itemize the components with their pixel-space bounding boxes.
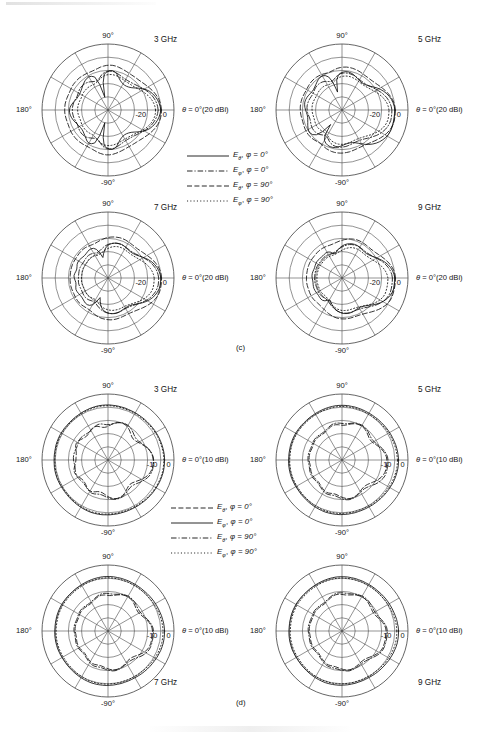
- frequency-label: 9 GHz: [418, 679, 441, 687]
- angle-tick-minus90: -90°: [335, 529, 349, 537]
- series-path-2: [308, 593, 387, 671]
- polar-plot-d-7ghz: 90°180°-90°-100θ = 0°(10 dBi)7 GHz: [28, 543, 270, 717]
- axis-label-theta: θ = 0°(10 dBi): [182, 456, 229, 464]
- page-scan-artifact-top: [6, 2, 156, 5]
- angle-tick-minus90: -90°: [335, 179, 349, 187]
- legend-label: Eφ, φ = 90°: [233, 195, 273, 206]
- legend-label: Eφ, φ = 0°: [233, 165, 269, 176]
- frequency-label: 5 GHz: [418, 386, 441, 394]
- polar-series-group: [306, 239, 395, 319]
- polar-plot-c-5ghz: 90°180°-90°-200θ = 0°(20 dBi)5 GHz: [262, 22, 496, 196]
- frequency-label: 7 GHz: [154, 204, 177, 212]
- legend-label: Eφ, φ = 90°: [217, 547, 257, 558]
- angle-tick-90: 90°: [102, 200, 113, 208]
- polar-axes: [28, 190, 270, 364]
- angle-tick-minus90: -90°: [101, 700, 115, 708]
- legend-line-swatch: [186, 181, 230, 191]
- legend-line-swatch: [186, 196, 230, 206]
- polar-plot-d-9ghz: 90°180°-90°-100θ = 0°(10 dBi)9 GHz: [262, 543, 496, 717]
- frequency-label: 5 GHz: [418, 36, 441, 44]
- legend-item: Eθ, φ = 0°: [186, 148, 273, 163]
- legend-label: Eθ, φ = 90°: [233, 180, 272, 191]
- angle-tick-180: 180°: [16, 627, 32, 635]
- legend-line-swatch: [186, 166, 230, 176]
- angle-tick-minus90: -90°: [101, 179, 115, 187]
- axis-label-theta: θ = 0°(20 dBi): [416, 274, 463, 282]
- legend-label: Eφ, φ = 0°: [217, 517, 253, 528]
- radial-tick-low: -10: [381, 461, 392, 468]
- radial-tick-high: 0: [163, 111, 167, 118]
- polar-grid: [276, 44, 408, 176]
- radial-tick-low: -20: [135, 279, 146, 286]
- axis-label-theta: θ = 0°(20 dBi): [416, 106, 463, 114]
- radial-tick-low: -10: [147, 461, 158, 468]
- axis-label-theta: θ = 0°(20 dBi): [182, 274, 229, 282]
- angle-tick-90: 90°: [336, 32, 347, 40]
- page-scan-artifact-bottom: [150, 726, 350, 732]
- legend-line-swatch: [170, 518, 214, 528]
- axis-label-theta: θ = 0°(10 dBi): [416, 627, 463, 635]
- frequency-label: 3 GHz: [154, 386, 177, 394]
- radial-tick-low: -20: [135, 111, 146, 118]
- frequency-label: 7 GHz: [154, 679, 177, 687]
- radial-tick-high: 0: [397, 111, 401, 118]
- axis-label-theta: θ = 0°(10 dBi): [182, 627, 229, 635]
- frequency-label: 9 GHz: [418, 204, 441, 212]
- polar-plot-d-5ghz: 90°180°-90°-100θ = 0°(10 dBi)5 GHz: [262, 372, 496, 546]
- polar-plot-c-9ghz: 90°180°-90°-200θ = 0°(20 dBi)9 GHz: [262, 190, 496, 364]
- angle-tick-180: 180°: [16, 106, 32, 114]
- subcaption-c: (c): [236, 344, 245, 352]
- legend-group-c: Eθ, φ = 0°Eφ, φ = 0°Eθ, φ = 90°Eφ, φ = 9…: [186, 148, 273, 208]
- radial-tick-low: -20: [369, 111, 380, 118]
- series-path-2: [306, 239, 395, 319]
- legend-item: Eθ, φ = 90°: [186, 178, 273, 193]
- polar-grid: [42, 44, 174, 176]
- angle-tick-90: 90°: [102, 382, 113, 390]
- angle-tick-90: 90°: [336, 553, 347, 561]
- angle-tick-minus90: -90°: [101, 529, 115, 537]
- angle-tick-minus90: -90°: [335, 700, 349, 708]
- legend-item: Eφ, φ = 0°: [186, 163, 273, 178]
- legend-label: Eθ, φ = 90°: [217, 532, 256, 543]
- legend-line-swatch: [170, 548, 214, 558]
- legend-line-swatch: [186, 151, 230, 161]
- angle-tick-180: 180°: [250, 456, 266, 464]
- figure-radiation-patterns: 90°180°-90°-200θ = 0°(20 dBi)3 GHz 90°18…: [0, 0, 496, 733]
- angle-tick-minus90: -90°: [101, 347, 115, 355]
- polar-plot-c-7ghz: 90°180°-90°-200θ = 0°(20 dBi)7 GHz: [28, 190, 270, 364]
- radial-tick-high: 0: [401, 632, 405, 639]
- radial-tick-high: 0: [163, 279, 167, 286]
- angle-tick-180: 180°: [250, 627, 266, 635]
- legend-item: Eφ, φ = 90°: [170, 545, 257, 560]
- angle-tick-180: 180°: [250, 274, 266, 282]
- frequency-label: 3 GHz: [154, 36, 177, 44]
- radial-tick-high: 0: [167, 632, 171, 639]
- axis-label-theta: θ = 0°(20 dBi): [182, 106, 229, 114]
- legend-label: Eθ, φ = 0°: [217, 502, 252, 513]
- angle-tick-90: 90°: [102, 32, 113, 40]
- legend-line-swatch: [170, 533, 214, 543]
- subcaption-d: (d): [236, 699, 246, 707]
- angle-tick-90: 90°: [336, 200, 347, 208]
- axis-label-theta: θ = 0°(10 dBi): [416, 456, 463, 464]
- legend-item: Eφ, φ = 90°: [186, 193, 273, 208]
- angle-tick-180: 180°: [16, 274, 32, 282]
- angle-tick-90: 90°: [102, 553, 113, 561]
- angle-tick-180: 180°: [16, 456, 32, 464]
- legend-label: Eθ, φ = 0°: [233, 150, 268, 161]
- radial-tick-high: 0: [401, 461, 405, 468]
- legend-item: Eφ, φ = 0°: [170, 515, 257, 530]
- legend-line-swatch: [170, 503, 214, 513]
- angle-tick-180: 180°: [250, 106, 266, 114]
- radial-tick-low: -20: [369, 279, 380, 286]
- legend-item: Eθ, φ = 0°: [170, 500, 257, 515]
- radial-tick-low: -10: [147, 632, 158, 639]
- radial-tick-high: 0: [397, 279, 401, 286]
- radial-tick-low: -10: [381, 632, 392, 639]
- legend-group-d: Eθ, φ = 0°Eφ, φ = 0°Eθ, φ = 90°Eφ, φ = 9…: [170, 500, 257, 560]
- angle-tick-minus90: -90°: [335, 347, 349, 355]
- legend-item: Eθ, φ = 90°: [170, 530, 257, 545]
- series-path-0: [305, 72, 395, 148]
- radial-tick-high: 0: [167, 461, 171, 468]
- polar-axes: [28, 543, 270, 717]
